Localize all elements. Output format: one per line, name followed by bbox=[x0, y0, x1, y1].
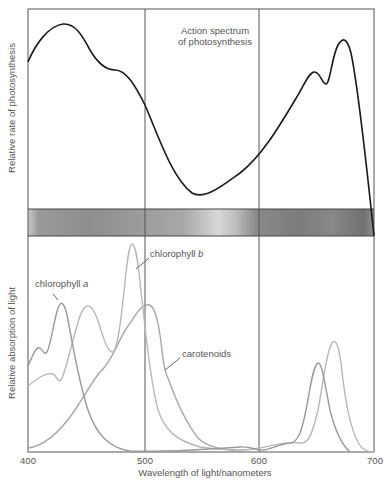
action-spectrum-curve bbox=[28, 24, 374, 236]
top-y-axis-label: Relative rate of photosynthesis bbox=[6, 43, 17, 173]
carotenoids-label: carotenoids bbox=[182, 348, 231, 359]
visible-spectrum-band bbox=[28, 209, 374, 236]
x-tick-600: 600 bbox=[251, 455, 267, 466]
chlorophyll-b-label-text: chlorophyll bbox=[150, 248, 198, 259]
bottom-y-axis-label: Relative absorption of light bbox=[6, 287, 17, 399]
x-tick-500: 500 bbox=[137, 455, 153, 466]
action-spectrum-title-line2: of photosynthesis bbox=[178, 36, 252, 47]
chlorophyll-b-label-italic: b bbox=[198, 248, 203, 259]
x-axis-label: Wavelength of light/nanometers bbox=[138, 467, 272, 478]
photosynthesis-chart: Action spectrum of photosynthesis Relati… bbox=[0, 0, 386, 483]
chlorophyll-b-label: chlorophyll b bbox=[150, 248, 203, 259]
chlorophyll-a-pointer bbox=[53, 294, 58, 300]
chlorophyll-a-label-italic: a bbox=[83, 278, 88, 289]
chlorophyll-a-label-text: chlorophyll bbox=[35, 278, 83, 289]
x-tick-400: 400 bbox=[20, 455, 36, 466]
carotenoids-pointer bbox=[165, 358, 180, 370]
action-spectrum-title-line1: Action spectrum bbox=[181, 25, 249, 36]
chlorophyll-a-curve bbox=[28, 303, 350, 452]
chlorophyll-a-label: chlorophyll a bbox=[35, 278, 88, 289]
x-tick-700: 700 bbox=[367, 455, 383, 466]
carotenoids-curve bbox=[28, 305, 259, 452]
